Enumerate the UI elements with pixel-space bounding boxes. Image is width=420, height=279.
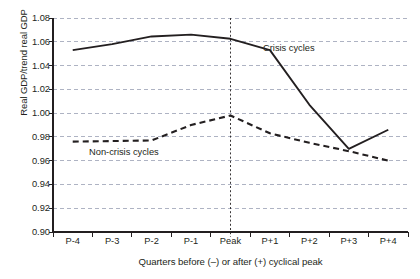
x-tick-label: P+3 bbox=[329, 236, 368, 246]
y-tick-label: 1.04 bbox=[4, 61, 50, 71]
plot-area bbox=[53, 18, 408, 232]
y-tick-label: 1.06 bbox=[4, 37, 50, 47]
x-axis-title: Quarters before (–) or after (+) cyclica… bbox=[53, 256, 408, 267]
y-tick-label: 0.90 bbox=[4, 227, 50, 237]
non-crisis-cycles-label: Non-crisis cycles bbox=[89, 147, 159, 157]
x-tick-label: P-3 bbox=[92, 236, 131, 246]
chart-figure: Real GDP/trend real GDP 1.081.061.041.02… bbox=[0, 0, 420, 279]
y-tick-label: 0.96 bbox=[4, 156, 50, 166]
x-tick-label: P+2 bbox=[290, 236, 329, 246]
x-tick-label: P+1 bbox=[250, 236, 289, 246]
x-tick-label: P+4 bbox=[369, 236, 408, 246]
y-tick-label: 1.08 bbox=[4, 13, 50, 23]
y-tick-label: 0.92 bbox=[4, 203, 50, 213]
gridlines bbox=[49, 18, 408, 232]
y-tick-label: 1.00 bbox=[4, 108, 50, 118]
plot-svg bbox=[53, 18, 408, 232]
x-tick-label: P-2 bbox=[132, 236, 171, 246]
x-axis-tick-labels: P-4P-3P-2P-1PeakP+1P+2P+3P+4 bbox=[53, 236, 408, 246]
y-tick-label: 1.02 bbox=[4, 84, 50, 94]
y-tick-label: 0.94 bbox=[4, 179, 50, 189]
x-tick-label: P-1 bbox=[171, 236, 210, 246]
crisis-cycles-label: Crisis cycles bbox=[263, 43, 315, 53]
y-axis-tick-labels: 1.081.061.041.021.000.980.960.940.920.90 bbox=[0, 0, 50, 279]
y-tick-label: 0.98 bbox=[4, 132, 50, 142]
x-tick-label: Peak bbox=[211, 236, 250, 246]
x-tick-label: P-4 bbox=[53, 236, 92, 246]
